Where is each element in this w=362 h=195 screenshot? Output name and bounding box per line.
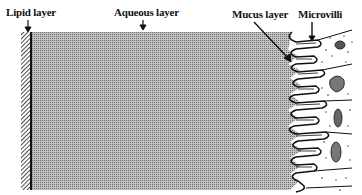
lipid-layer xyxy=(21,32,31,190)
aqueous-layer xyxy=(31,32,302,190)
cell-organelles xyxy=(330,41,345,162)
diagram-canvas xyxy=(0,0,362,195)
